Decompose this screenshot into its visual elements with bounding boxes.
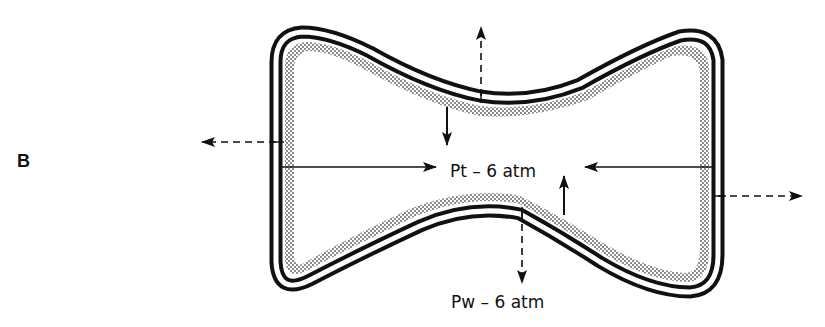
wall-pressure-label: Pw – 6 atm: [451, 292, 544, 312]
cell-diagram: [0, 0, 825, 327]
turgor-pressure-label: Pt – 6 atm: [450, 161, 536, 181]
